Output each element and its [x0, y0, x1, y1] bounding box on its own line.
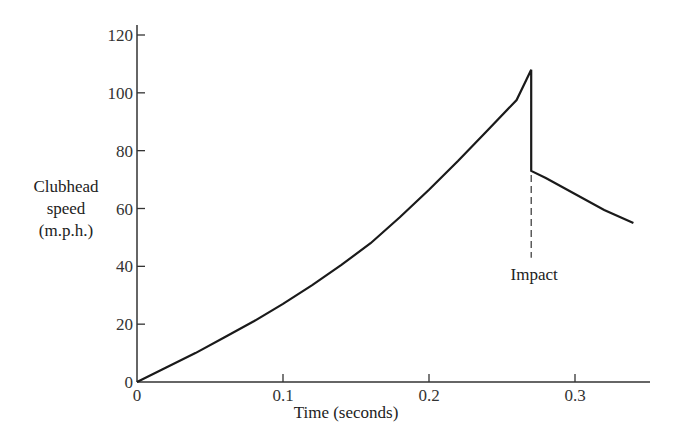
impact-label: Impact — [511, 265, 558, 284]
y-tick-label: 40 — [116, 257, 133, 276]
y-axis-title-line: speed — [47, 199, 86, 218]
annotations: Impact — [511, 175, 558, 284]
y-tick-label: 120 — [108, 26, 134, 45]
clubhead-speed-chart: 02040608010012000.10.20.3 Impact Clubhea… — [0, 0, 678, 444]
y-axis-title-line: Clubhead — [33, 177, 99, 196]
series — [137, 70, 633, 382]
ticks: 02040608010012000.10.20.3 — [108, 26, 586, 405]
y-tick-label: 20 — [116, 315, 133, 334]
x-tick-label: 0 — [133, 386, 142, 405]
x-axis-title: Time (seconds) — [294, 403, 399, 422]
axes — [137, 25, 650, 382]
x-tick-label: 0.1 — [272, 386, 293, 405]
x-tick-label: 0.3 — [564, 386, 585, 405]
y-tick-label: 0 — [125, 373, 134, 392]
y-axis-title-line: (m.p.h.) — [39, 221, 93, 240]
speed-line — [137, 70, 633, 382]
y-axis-title: Clubheadspeed(m.p.h.) — [33, 177, 99, 240]
y-tick-label: 60 — [116, 200, 133, 219]
y-tick-label: 100 — [108, 84, 134, 103]
y-tick-label: 80 — [116, 142, 133, 161]
x-tick-label: 0.2 — [418, 386, 439, 405]
